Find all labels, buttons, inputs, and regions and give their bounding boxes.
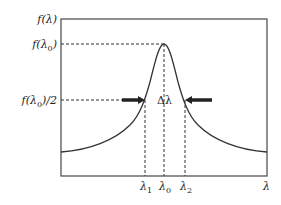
x-tick-lambda0: λ0 xyxy=(159,181,171,195)
x-tick-lambda2: λ2 xyxy=(180,181,192,195)
y-tick-peak: f(λ0) xyxy=(32,39,57,53)
right-arrow-icon xyxy=(185,96,192,104)
delta-lambda-label: Δλ xyxy=(157,95,172,106)
y-tick-half-max: f(λ0)/2 xyxy=(22,95,57,109)
x-axis-label: λ xyxy=(263,181,270,192)
y-axis-label: f(λ) xyxy=(37,14,57,25)
x-tick-lambda1: λ1 xyxy=(140,181,152,195)
